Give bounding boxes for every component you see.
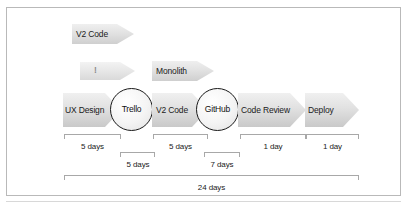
measure-bracket-trello <box>120 152 155 157</box>
measure-label-total: 24 days <box>64 184 359 192</box>
measure-bracket-v2-code <box>153 134 208 139</box>
upper-arrow-exclamation <box>80 58 135 84</box>
upper-arrow-monolith-label: Monolith <box>156 67 187 76</box>
pipeline-arrow-ux-design-label: UX Design <box>65 106 104 115</box>
measure-label-deploy: 1 day <box>306 143 359 151</box>
pipeline-arrow-code-review-label: Code Review <box>241 106 290 115</box>
measure-label-v2-code: 5 days <box>153 143 208 151</box>
measure-label-github: 7 days <box>197 161 247 169</box>
measure-label-trello: 5 days <box>113 161 163 169</box>
pipeline-arrow-deploy-label: Deploy <box>308 106 334 115</box>
measure-bracket-total <box>64 175 359 180</box>
measure-bracket-ux-design <box>64 134 121 139</box>
measure-label-ux-design: 5 days <box>64 143 121 151</box>
caption-divider <box>6 201 401 202</box>
figure-container: V2 Code ! Mo <box>0 0 409 213</box>
measure-bracket-github <box>204 152 240 157</box>
upper-arrow-exclamation-label: ! <box>94 66 97 75</box>
pipeline-node-github-label: GitHub <box>205 105 230 114</box>
measure-label-code-review: 1 day <box>240 143 306 151</box>
upper-arrow-v2-code-label: V2 Code <box>76 30 108 39</box>
pipeline-node-trello: Trello <box>110 88 153 131</box>
measure-bracket-deploy <box>306 134 359 139</box>
pipeline-node-github: GitHub <box>196 88 239 131</box>
measure-bracket-code-review <box>240 134 306 139</box>
pipeline-arrow-v2-code-label: V2 Code <box>156 106 188 115</box>
pipeline-node-trello-label: Trello <box>122 105 142 114</box>
